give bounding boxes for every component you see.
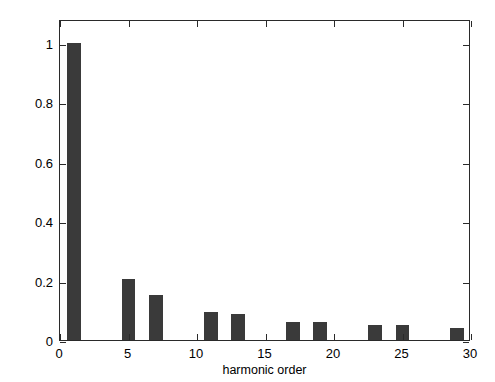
x-axis-tick-label: 0 <box>55 346 62 361</box>
y-axis-tick <box>60 164 66 165</box>
bar <box>231 314 245 340</box>
y-axis-tick-label: 0.6 <box>5 155 53 170</box>
x-axis-tick <box>129 334 130 340</box>
y-axis-tick <box>60 104 66 105</box>
x-axis-tick <box>266 21 267 27</box>
y-axis-tick-label: 1 <box>5 36 53 51</box>
x-axis-tick <box>403 21 404 27</box>
bar <box>286 322 300 340</box>
x-axis-tick <box>60 21 61 27</box>
bar <box>67 43 81 340</box>
x-axis-tick <box>471 334 472 340</box>
bar <box>122 279 136 340</box>
x-axis-tick <box>403 334 404 340</box>
y-axis-tick-label: 0.8 <box>5 96 53 111</box>
y-axis-tick <box>463 104 469 105</box>
x-axis-tick-label: 5 <box>124 346 131 361</box>
y-axis-tick <box>463 283 469 284</box>
y-axis-tick <box>60 45 66 46</box>
bar <box>450 328 464 340</box>
y-axis-tick <box>463 45 469 46</box>
x-axis-tick-label: 20 <box>326 346 340 361</box>
plot-area <box>59 20 470 341</box>
x-axis-tick <box>334 21 335 27</box>
y-axis-tick <box>60 223 66 224</box>
y-axis-tick-label: 0.4 <box>5 215 53 230</box>
bars-layer <box>60 21 469 340</box>
x-axis-tick-label: 25 <box>394 346 408 361</box>
x-axis-tick-label: 15 <box>257 346 271 361</box>
y-axis-tick-label: 0 <box>5 334 53 349</box>
y-axis-tick-label: 0.2 <box>5 274 53 289</box>
x-axis-tick <box>471 21 472 27</box>
x-axis-tick <box>197 334 198 340</box>
y-axis-tick <box>463 164 469 165</box>
x-axis-tick <box>334 334 335 340</box>
x-axis-tick <box>266 334 267 340</box>
y-axis-tick <box>60 342 66 343</box>
bar <box>149 295 163 340</box>
y-axis-tick <box>60 283 66 284</box>
x-axis-title: harmonic order <box>59 363 470 377</box>
y-axis-tick <box>463 342 469 343</box>
bar <box>204 312 218 340</box>
x-axis-tick <box>197 21 198 27</box>
x-axis-tick <box>60 334 61 340</box>
bar <box>368 325 382 340</box>
chart-page: normalized amplitude = In/I1 00.20.40.60… <box>0 0 495 382</box>
bar <box>313 322 327 340</box>
x-axis-tick-label: 10 <box>189 346 203 361</box>
x-axis-tick-label: 30 <box>463 346 477 361</box>
y-axis-tick <box>463 223 469 224</box>
x-axis-tick <box>129 21 130 27</box>
